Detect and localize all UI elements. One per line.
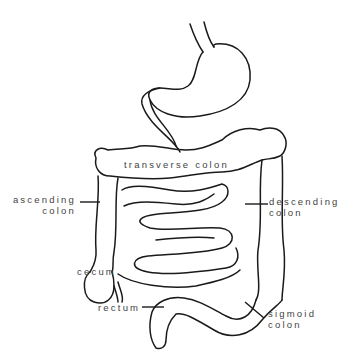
- label-sigmoid-colon-line2: colon: [268, 319, 316, 330]
- label-ascending-colon-line1: ascending: [12, 194, 76, 205]
- label-descending-colon: descending colon: [269, 196, 340, 218]
- label-sigmoid-colon-line1: sigmoid: [268, 308, 316, 319]
- label-transverse-colon: transverse colon: [124, 159, 229, 170]
- label-leader-lines: [0, 0, 348, 358]
- label-ascending-colon-line2: colon: [12, 205, 76, 216]
- label-sigmoid-colon: sigmoid colon: [268, 308, 316, 330]
- label-descending-colon-line1: descending: [269, 196, 340, 207]
- label-ascending-colon: ascending colon: [12, 194, 76, 216]
- label-descending-colon-line2: colon: [269, 207, 340, 218]
- label-cecum: cecum: [77, 266, 116, 277]
- sigmoid-colon-leader: [245, 302, 264, 318]
- label-rectum: rectum: [98, 302, 140, 313]
- intestine-diagram: transverse colon ascending colon descend…: [0, 0, 348, 358]
